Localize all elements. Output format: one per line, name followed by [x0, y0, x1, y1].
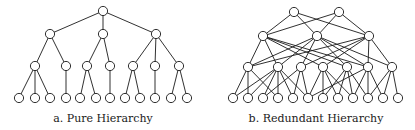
graph-edge: [156, 34, 179, 66]
graph-node: [258, 93, 267, 102]
graph-node: [91, 93, 100, 102]
graph-node: [363, 93, 372, 102]
graph-edge: [103, 11, 156, 34]
graph-node: [98, 6, 107, 15]
graph-node: [75, 93, 84, 102]
graph-edge: [263, 12, 294, 36]
graph-edge: [353, 67, 368, 98]
graph-node: [363, 62, 372, 71]
graph-edge: [133, 34, 156, 66]
graph-node: [303, 93, 312, 102]
graph-edge: [308, 67, 323, 98]
graph-node: [243, 93, 252, 102]
pure-hierarchy-caption: a. Pure Hierarchy: [53, 112, 152, 125]
diagram-canvas: [0, 0, 415, 130]
graph-node: [182, 93, 191, 102]
graph-node: [128, 61, 137, 70]
graph-node: [166, 93, 175, 102]
graph-node: [342, 62, 351, 71]
graph-node: [258, 31, 267, 40]
redundant-hierarchy-graph: [228, 7, 402, 102]
graph-node: [288, 93, 297, 102]
graph-node: [30, 93, 39, 102]
graph-node: [289, 7, 298, 16]
graph-node: [296, 62, 305, 71]
graph-node: [273, 93, 282, 102]
graph-edge: [368, 67, 383, 98]
pure-hierarchy-edges: [19, 11, 187, 98]
graph-node: [393, 93, 402, 102]
graph-node: [135, 93, 144, 102]
graph-edge: [323, 67, 347, 98]
redundant-hierarchy-caption: b. Redundant Hierarchy: [249, 112, 384, 125]
graph-node: [120, 93, 129, 102]
graph-node: [30, 61, 39, 70]
graph-node: [105, 61, 114, 70]
graph-node: [333, 93, 342, 102]
graph-node: [45, 93, 54, 102]
graph-edge: [50, 34, 66, 66]
graph-node: [82, 61, 91, 70]
pure-hierarchy-graph: [14, 6, 191, 102]
graph-edge: [278, 67, 293, 98]
graph-edge: [19, 66, 35, 98]
graph-edge: [323, 67, 338, 98]
graph-node: [45, 29, 54, 38]
graph-node: [387, 62, 396, 71]
graph-node: [243, 62, 252, 71]
graph-node: [151, 29, 160, 38]
redundant-hierarchy-edges: [233, 12, 398, 98]
graph-node: [318, 62, 327, 71]
graph-edge: [35, 34, 50, 66]
graph-node: [14, 93, 23, 102]
graph-node: [228, 93, 237, 102]
graph-node: [348, 93, 357, 102]
graph-node: [150, 61, 159, 70]
graph-edge: [339, 12, 369, 36]
graph-edge: [35, 66, 50, 98]
graph-node: [174, 61, 183, 70]
graph-node: [150, 93, 159, 102]
graph-node: [378, 93, 387, 102]
graph-node: [318, 93, 327, 102]
graph-node: [334, 7, 343, 16]
graph-edge: [368, 67, 392, 98]
graph-node: [61, 93, 70, 102]
graph-edge: [87, 34, 103, 66]
graph-node: [98, 29, 107, 38]
graph-node: [273, 62, 282, 71]
graph-edge: [233, 67, 278, 98]
graph-edge: [50, 11, 103, 34]
graph-node: [312, 31, 321, 40]
graph-node: [61, 61, 70, 70]
graph-edge: [248, 36, 263, 67]
graph-edge: [248, 36, 317, 67]
graph-node: [105, 93, 114, 102]
graph-node: [364, 31, 373, 40]
